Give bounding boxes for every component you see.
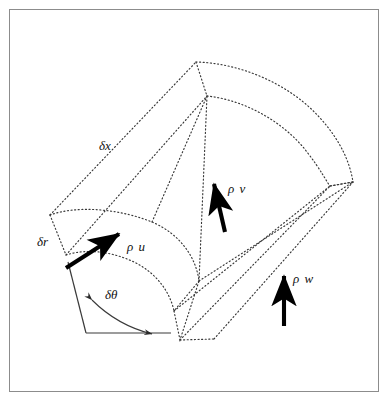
- axial-edge-inner-bottom: [174, 186, 330, 311]
- near-face-outer-arc: [50, 209, 199, 281]
- far-face-edge-top: [196, 62, 207, 96]
- label-rho-u: ρ u: [127, 240, 146, 253]
- angle-radial-line: [68, 262, 86, 333]
- rho-v-arrow: [214, 184, 225, 232]
- near-face-edge-left: [50, 215, 66, 255]
- angle-arc: [92, 300, 152, 334]
- near-face-edge-right: [174, 281, 199, 311]
- angle-marker-group: [68, 262, 171, 334]
- label-rho-w: ρ w: [293, 272, 314, 285]
- surface-crest-ridge-outer: [199, 96, 207, 281]
- control-volume-outline: [50, 62, 353, 340]
- label-delta-x: δx: [99, 139, 111, 152]
- surface-crest-ridge: [152, 96, 207, 222]
- axial-edge-outer-bottom: [199, 182, 353, 281]
- figure-root: δx δr δθ ρ u ρ v ρ w: [0, 0, 390, 402]
- near-face-bottom-edge: [174, 281, 199, 340]
- label-rho-v: ρ v: [228, 182, 246, 195]
- label-delta-r: δr: [37, 235, 48, 248]
- near-face-inner-arc: [66, 252, 174, 311]
- diagram-canvas: [0, 0, 390, 402]
- axial-edge-outer-top: [50, 62, 196, 215]
- label-delta-theta: δθ: [105, 288, 117, 301]
- flux-arrows-group: [66, 184, 284, 326]
- near-face-bottom-chord: [180, 339, 214, 340]
- rho-u-arrow: [66, 234, 119, 268]
